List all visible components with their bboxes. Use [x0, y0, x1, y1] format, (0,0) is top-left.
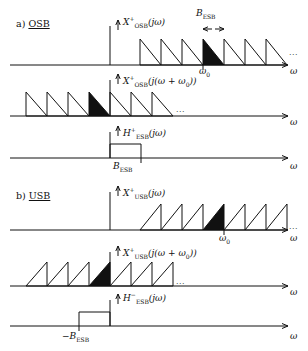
- usb-shifted-ellipsis: ...: [176, 277, 185, 286]
- usb-filter-axis-label: ω: [290, 331, 297, 341]
- usb-spectrum-ellipsis: ...: [289, 222, 298, 231]
- osb-filter-axis-label: ω: [290, 161, 297, 171]
- osb-filter-passband: [110, 144, 141, 158]
- usb-filter-signal-label: H−ESB(jω): [123, 291, 166, 305]
- osb-shifted-ellipsis: ...: [176, 105, 185, 114]
- usb-shifted-signal-label: X+USB(j(ω + ω0)): [123, 246, 197, 260]
- osb-highlighted-tooth: [203, 39, 224, 65]
- osb-filter-edge-label: BESB: [113, 161, 133, 173]
- usb-highlighted-tooth: [203, 204, 224, 230]
- osb-spectrum-ellipsis: ...: [289, 48, 298, 57]
- usb-filter-edge-label: −BESB: [62, 331, 89, 343]
- osb-spectrum-signal-label: X+OSB(jω): [123, 15, 165, 29]
- usb-filter-passband: [79, 312, 110, 326]
- usb-shifted-highlighted-tooth: [89, 262, 110, 286]
- osb-shifted-highlighted-tooth: [89, 92, 110, 116]
- osb-shifted-signal-label: X+OSB(j(ω + ω0)): [123, 74, 197, 88]
- osb-bandwidth-label: BESB: [196, 8, 216, 20]
- osb-filter-signal-label: H+ESB(jω): [123, 126, 166, 140]
- usb-spectrum-signal-label: X+USB(jω): [123, 186, 165, 200]
